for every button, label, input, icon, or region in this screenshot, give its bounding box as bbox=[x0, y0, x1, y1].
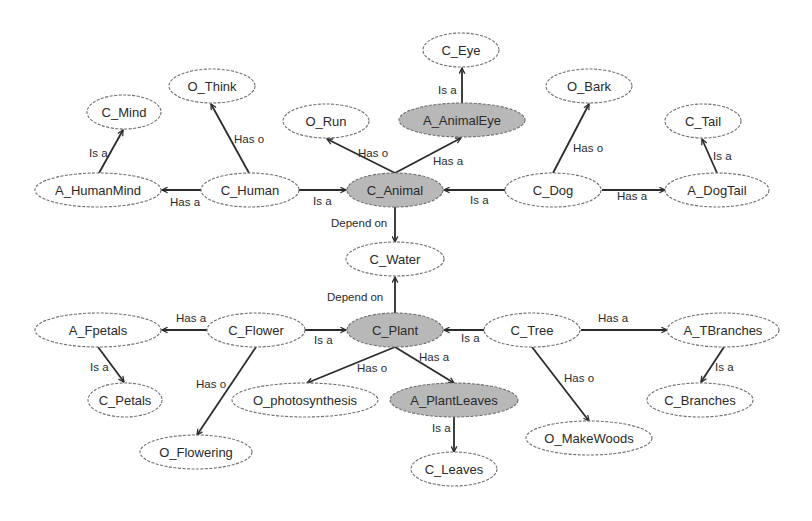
edge-label: Has a bbox=[433, 155, 464, 167]
edge-c-tree-to-o-makewoods: Has o bbox=[532, 347, 594, 421]
edge-c-dog-to-a-dogtail: Has a bbox=[602, 190, 665, 202]
node-label: O_Flowering bbox=[159, 445, 233, 460]
edge-c-plant-to-o-photosynthesis: Has o bbox=[307, 347, 395, 383]
edge-label: Has o bbox=[196, 378, 226, 390]
node-c-tail: C_Tail bbox=[665, 104, 741, 138]
node-label: O_Bark bbox=[567, 79, 612, 94]
node-label: A_DogTail bbox=[687, 183, 746, 198]
node-a-animaleye: A_AnimalEye bbox=[399, 103, 525, 137]
node-c-plant: C_Plant bbox=[347, 313, 443, 347]
node-label: C_Flower bbox=[228, 323, 284, 338]
node-label: C_Mind bbox=[102, 105, 147, 120]
node-c-tree: C_Tree bbox=[484, 313, 580, 347]
edge-label: Has o bbox=[573, 142, 603, 154]
node-c-water: C_Water bbox=[346, 242, 444, 276]
node-a-dogtail: A_DogTail bbox=[665, 173, 769, 207]
edge-label: Has o bbox=[357, 362, 387, 374]
node-o-photosynthesis: O_photosynthesis bbox=[232, 383, 378, 417]
edge-label: Has a bbox=[598, 312, 629, 324]
edge-c-human-to-a-humanmind: Has a bbox=[162, 190, 201, 208]
node-label: C_Dog bbox=[533, 183, 573, 198]
edge-c-animal-to-a-animaleye: Has a bbox=[395, 138, 464, 173]
edge-label: Is a bbox=[89, 147, 108, 159]
edge-c-human-to-o-think: Has o bbox=[211, 104, 264, 173]
node-a-tbranches: A_TBranches bbox=[667, 313, 779, 347]
edge-label: Is a bbox=[438, 84, 457, 96]
edge-c-tree-to-c-plant: Is a bbox=[444, 330, 484, 344]
edge-label: Is a bbox=[432, 422, 451, 434]
node-c-branches: C_Branches bbox=[647, 383, 753, 417]
node-label: A_Fpetals bbox=[69, 323, 128, 338]
node-c-petals: C_Petals bbox=[88, 383, 162, 417]
node-c-flower: C_Flower bbox=[207, 313, 305, 347]
ontology-diagram: Is aHas aHas oHas oIs aHas aIs aIs aHas … bbox=[0, 0, 812, 521]
node-c-mind: C_Mind bbox=[87, 95, 161, 129]
node-c-leaves: C_Leaves bbox=[411, 452, 497, 486]
edge-label: Is a bbox=[313, 195, 332, 207]
node-label: C_Branches bbox=[664, 393, 736, 408]
edge-label: Depend on bbox=[331, 217, 387, 229]
edge-a-dogtail-to-c-tail: Is a bbox=[702, 139, 732, 173]
node-label: C_Tree bbox=[511, 323, 554, 338]
edge-label: Has a bbox=[617, 190, 648, 202]
edge-c-dog-to-o-bark: Has o bbox=[553, 104, 603, 173]
node-label: C_Human bbox=[221, 183, 280, 198]
node-label: O_Think bbox=[187, 79, 237, 94]
edge-label: Is a bbox=[461, 332, 480, 344]
node-label: C_Petals bbox=[99, 393, 152, 408]
node-label: C_Water bbox=[370, 252, 421, 267]
node-label: A_TBranches bbox=[684, 323, 763, 338]
edge-label: Has o bbox=[564, 372, 594, 384]
edge-a-tbranches-to-c-branches: Is a bbox=[701, 347, 734, 382]
node-c-dog: C_Dog bbox=[505, 173, 601, 207]
node-label: A_PlantLeaves bbox=[410, 393, 498, 408]
node-o-makewoods: O_MakeWoods bbox=[526, 421, 652, 455]
node-label: C_Animal bbox=[367, 183, 423, 198]
node-a-fpetals: A_Fpetals bbox=[35, 313, 161, 347]
edge-c-plant-to-c-water: Depend on bbox=[327, 277, 395, 313]
node-a-humanmind: A_HumanMind bbox=[35, 173, 161, 207]
edge-label: Has a bbox=[170, 196, 201, 208]
node-label: A_HumanMind bbox=[55, 183, 141, 198]
node-a-plantleaves: A_PlantLeaves bbox=[390, 383, 518, 417]
edge-label: Is a bbox=[713, 150, 732, 162]
edge-label: Is a bbox=[90, 361, 109, 373]
edge-label: Depend on bbox=[327, 291, 383, 303]
edge-label: Has o bbox=[234, 133, 264, 145]
edge-label: Is a bbox=[715, 361, 734, 373]
edge-a-humanmind-to-c-mind: Is a bbox=[89, 130, 123, 173]
node-label: C_Eye bbox=[441, 43, 480, 58]
edge-label: Is a bbox=[314, 334, 333, 346]
edge-a-fpetals-to-c-petals: Is a bbox=[90, 347, 124, 382]
edge-c-flower-to-c-plant: Is a bbox=[305, 330, 346, 346]
edge-c-plant-to-a-plantleaves: Has a bbox=[395, 347, 454, 383]
edge-label: Has o bbox=[358, 147, 388, 159]
edge-c-tree-to-a-tbranches: Has a bbox=[581, 312, 667, 330]
node-o-run: O_Run bbox=[283, 104, 369, 138]
node-label: O_Run bbox=[305, 114, 346, 129]
node-label: C_Plant bbox=[372, 323, 419, 338]
node-label: O_MakeWoods bbox=[544, 431, 634, 446]
node-c-human: C_Human bbox=[201, 173, 299, 207]
node-label: C_Tail bbox=[685, 114, 721, 129]
edge-c-flower-to-a-fpetals: Has a bbox=[162, 312, 207, 330]
node-label: A_AnimalEye bbox=[423, 113, 501, 128]
node-c-animal: C_Animal bbox=[347, 173, 443, 207]
node-label: C_Leaves bbox=[425, 462, 484, 477]
node-c-eye: C_Eye bbox=[423, 33, 499, 67]
node-o-flowering: O_Flowering bbox=[140, 435, 252, 469]
edge-label: Has a bbox=[419, 351, 450, 363]
arrow-icon bbox=[553, 104, 589, 173]
node-o-think: O_Think bbox=[169, 69, 255, 103]
edge-a-plantleaves-to-c-leaves: Is a bbox=[432, 417, 454, 452]
edge-label: Is a bbox=[470, 194, 489, 206]
nodes-layer: C_EyeA_AnimalEyeO_BarkC_TailO_ThinkC_Min… bbox=[35, 33, 779, 486]
node-label: O_photosynthesis bbox=[253, 393, 358, 408]
edge-c-animal-to-o-run: Has o bbox=[327, 139, 395, 173]
edge-c-dog-to-c-animal: Is a bbox=[444, 190, 505, 206]
arrow-icon bbox=[532, 347, 589, 421]
edge-c-animal-to-c-water: Depend on bbox=[331, 207, 395, 242]
edge-c-human-to-c-animal: Is a bbox=[299, 190, 346, 207]
edge-a-animaleye-to-c-eye: Is a bbox=[438, 68, 462, 103]
node-o-bark: O_Bark bbox=[546, 69, 632, 103]
